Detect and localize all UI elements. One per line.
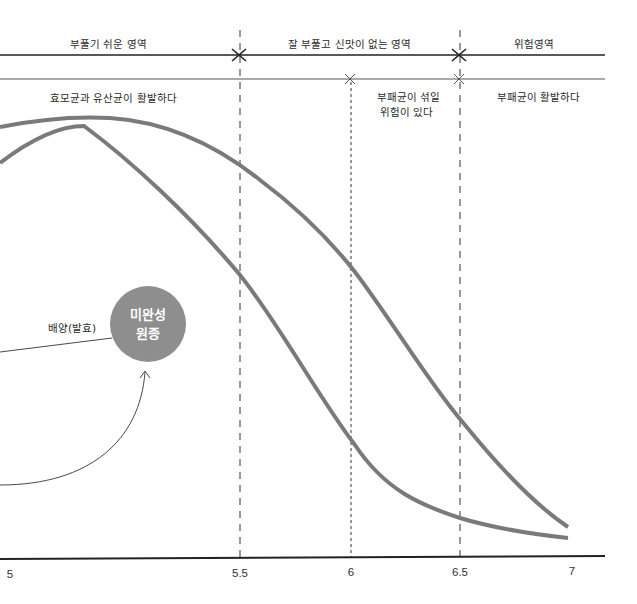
culture-pointer (0, 338, 112, 352)
zone-label-3: 위험영역 (514, 36, 554, 51)
bacteria-label-2a: 부패균이 섞일 (377, 89, 440, 104)
zone-label-1: 부풀기 쉬운 영역 (70, 36, 147, 51)
bacteria-label-1: 효모균과 유산균이 활발하다 (50, 90, 177, 105)
feedback-arrow (0, 372, 145, 485)
bubble-line-2: 원종 (136, 324, 160, 343)
x-tick-6: 6 (348, 566, 354, 578)
bacteria-label-2b: 위험이 있다 (380, 104, 433, 119)
culture-label: 배양(발효) (48, 320, 96, 335)
x-tick-7: 7 (569, 565, 575, 577)
x-tick-6.5: 6.5 (452, 566, 468, 578)
x-tick-5.5: 5.5 (232, 567, 248, 579)
x-tick-5: 5 (7, 568, 13, 580)
bacteria-label-3: 부패균이 활발하다 (497, 89, 580, 104)
x-axis (0, 556, 605, 559)
bubble-line-1: 미완성 (130, 305, 166, 324)
zone-label-2: 잘 부풀고 신맛이 없는 영역 (288, 36, 411, 51)
incomplete-starter-bubble: 미완성 원종 (110, 286, 186, 362)
